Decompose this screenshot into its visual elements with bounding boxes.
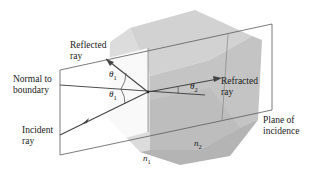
plane-label-line1: Plane of bbox=[263, 115, 299, 126]
n2-symbol: n2 bbox=[194, 138, 202, 150]
reflected-ray-label: Reflected ray bbox=[70, 40, 106, 62]
incident-ray-label-line2: ray bbox=[22, 136, 53, 147]
reflected-ray-label-line1: Reflected bbox=[70, 40, 106, 51]
normal-label-line2: boundary bbox=[13, 85, 52, 96]
incident-ray-label-line1: Incident bbox=[22, 125, 53, 136]
incident-ray-label: Incident ray bbox=[22, 125, 53, 147]
plane-label-line2: incidence bbox=[263, 126, 299, 137]
theta2-symbol: θ2 bbox=[190, 81, 198, 93]
refracted-ray-label-line1: Refracted bbox=[221, 76, 258, 87]
reflected-ray-label-line2: ray bbox=[70, 51, 106, 62]
theta1-lower-symbol: θ1 bbox=[109, 89, 117, 101]
theta1-upper-symbol: θ1 bbox=[109, 69, 117, 81]
diagram-canvas: Reflected ray Normal to boundary Inciden… bbox=[0, 0, 313, 170]
refracted-ray-label: Refracted ray bbox=[221, 76, 258, 98]
refracted-ray-label-line2: ray bbox=[221, 87, 258, 98]
plane-of-incidence-label: Plane of incidence bbox=[263, 115, 299, 137]
normal-label-line1: Normal to bbox=[13, 74, 52, 85]
n1-symbol: n1 bbox=[143, 153, 151, 165]
normal-label: Normal to boundary bbox=[13, 74, 52, 96]
